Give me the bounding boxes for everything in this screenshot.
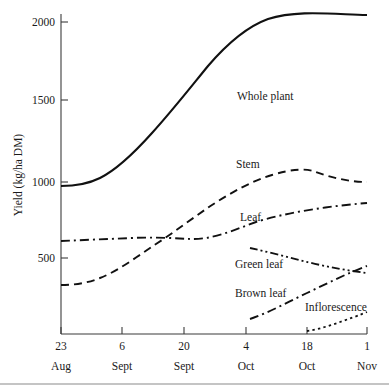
x-tick-day-2: 20 [178,340,190,352]
series-inflorescence-line [307,312,367,331]
x-tick-day-1: 6 [119,340,125,352]
chart-svg: 2000 1500 1000 500 23 6 20 4 18 1 Aug Se… [0,0,389,390]
series-leaf-line [61,203,367,241]
x-tick-month-2: Sept [174,360,195,373]
series-label-whole-plant: Whole plant [237,90,294,103]
y-tick-label-500: 500 [38,252,56,264]
series-whole-plant-line [61,13,367,186]
x-tick-day-3: 4 [243,340,249,352]
x-tick-day-4: 18 [301,340,313,352]
y-tick-label-1500: 1500 [32,94,55,106]
series-label-green-leaf: Green leaf [235,258,283,270]
x-tick-month-0: Aug [51,360,71,373]
y-tick-label-1000: 1000 [32,176,55,188]
x-tick-month-1: Sept [112,360,133,373]
chart-axes: 2000 1500 1000 500 23 6 20 4 18 1 Aug Se… [12,14,377,373]
x-tick-month-3: Oct [238,360,255,372]
y-tick-label-2000: 2000 [32,16,55,28]
chart-series [61,13,367,331]
yield-line-chart-figure: 2000 1500 1000 500 23 6 20 4 18 1 Aug Se… [0,0,389,390]
series-label-inflorescence: Inflorescence [305,301,367,313]
series-label-leaf: Leaf [240,211,261,223]
series-label-stem: Stem [236,158,260,170]
x-tick-month-5: Nov [357,360,377,372]
x-tick-month-4: Oct [299,360,316,372]
series-label-brown-leaf: Brown leaf [235,287,287,299]
series-stem-line [61,170,367,285]
chart-series-labels: Whole plant Stem Leaf Green leaf Brown l… [235,90,367,313]
x-tick-day-5: 1 [364,340,370,352]
y-axis-title: Yield (kg/ha DM) [12,134,25,217]
x-tick-day-0: 23 [55,340,67,352]
